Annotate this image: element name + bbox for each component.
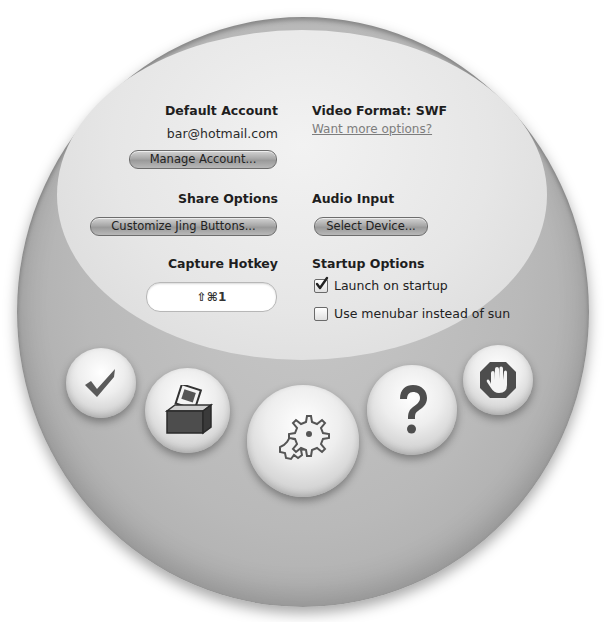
select-device-button[interactable]: Select Device...	[314, 217, 428, 236]
history-button[interactable]	[145, 368, 230, 453]
checkbox-checked-icon[interactable]	[314, 279, 328, 293]
capture-hotkey-heading: Capture Hotkey	[150, 256, 278, 271]
customize-jing-buttons-button[interactable]: Customize Jing Buttons...	[90, 217, 277, 236]
use-menubar-label: Use menubar instead of sun	[334, 306, 510, 321]
question-mark-icon	[392, 383, 432, 437]
want-more-options-link[interactable]: Want more options?	[312, 122, 432, 136]
account-email: bar@hotmail.com	[140, 126, 278, 141]
manage-account-button[interactable]: Manage Account...	[129, 150, 277, 169]
audio-input-heading: Audio Input	[312, 191, 394, 206]
stop-hand-icon	[478, 360, 518, 400]
launch-on-startup-label: Launch on startup	[334, 278, 448, 293]
share-options-heading: Share Options	[150, 191, 278, 206]
use-menubar-checkbox[interactable]: Use menubar instead of sun	[314, 306, 510, 321]
gears-icon	[267, 410, 339, 472]
help-button[interactable]	[367, 365, 457, 455]
capture-hotkey-field[interactable]: ⇧⌘1	[146, 282, 277, 312]
launch-on-startup-checkbox[interactable]: Launch on startup	[314, 278, 448, 293]
quit-button[interactable]	[463, 345, 533, 415]
checkmark-icon	[81, 365, 121, 401]
done-button[interactable]	[66, 348, 136, 418]
preferences-button[interactable]	[247, 385, 359, 497]
ballot-box-icon	[161, 385, 215, 437]
video-format-heading: Video Format: SWF	[312, 103, 447, 118]
checkbox-unchecked-icon[interactable]	[314, 307, 328, 321]
startup-options-heading: Startup Options	[312, 256, 425, 271]
default-account-heading: Default Account	[150, 103, 278, 118]
